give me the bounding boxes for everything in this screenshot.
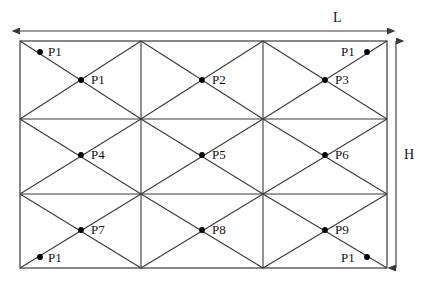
node-label-p9: P9: [335, 223, 349, 236]
length-dimension-label: L: [333, 11, 342, 25]
node-marker: [322, 77, 328, 83]
corner-label-bottom-right: P1: [341, 251, 355, 264]
mesh-geometry-canvas: [0, 0, 434, 287]
node-marker: [322, 227, 328, 233]
node-marker: [322, 152, 328, 158]
corner-label-top-right: P1: [341, 45, 355, 58]
node-label-p6: P6: [335, 148, 349, 161]
corner-node-marker: [364, 254, 370, 260]
node-marker: [199, 227, 205, 233]
node-label-p7: P7: [91, 223, 105, 236]
node-label-p5: P5: [212, 148, 226, 161]
node-label-p4: P4: [91, 148, 105, 161]
node-marker: [78, 152, 84, 158]
node-marker: [199, 152, 205, 158]
node-label-p3: P3: [335, 73, 349, 86]
node-marker: [78, 77, 84, 83]
corner-label-top-left: P1: [48, 45, 62, 58]
node-label-p8: P8: [212, 223, 226, 236]
node-marker: [78, 227, 84, 233]
corner-node-marker: [37, 254, 43, 260]
height-dimension-label: H: [404, 148, 414, 162]
node-label-p1: P1: [91, 73, 105, 86]
mesh-diagram: L H P1 P2 P3 P4 P5 P6 P7 P8 P9 P1 P1 P1 …: [0, 0, 434, 287]
corner-node-marker: [364, 49, 370, 55]
corner-node-marker: [37, 49, 43, 55]
node-marker: [199, 77, 205, 83]
node-label-p2: P2: [212, 73, 226, 86]
corner-label-bottom-left: P1: [48, 251, 62, 264]
